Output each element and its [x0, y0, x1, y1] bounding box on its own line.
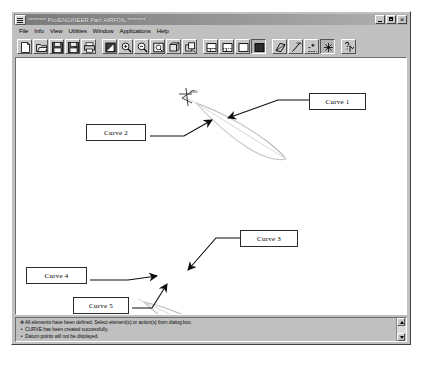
message-bullet-icon: ✥ [18, 319, 25, 326]
message-text: Datum points will not be displayed. [25, 333, 99, 340]
message-bullet-icon: • [18, 326, 25, 333]
message-line: • Datum points will not be displayed. [18, 333, 396, 340]
context-help-icon[interactable] [341, 39, 356, 54]
saved-view-icon[interactable] [182, 39, 197, 54]
upper-airfoil-geometry [184, 97, 286, 160]
toolbar-group-datum [272, 39, 336, 54]
repaint-icon[interactable] [102, 39, 117, 54]
open-folder-icon[interactable] [33, 39, 48, 54]
menu-item-info[interactable]: Info [31, 27, 47, 36]
callout-curve-5[interactable]: Curve 5 [73, 297, 129, 314]
close-button[interactable] [397, 15, 407, 24]
menu-item-view[interactable]: View [47, 27, 66, 36]
datum-point-icon[interactable] [304, 39, 319, 54]
save-as-icon[interactable] [65, 39, 80, 54]
datum-csys-icon[interactable] [320, 39, 335, 54]
message-window: ✥ All elements have been defined. Select… [15, 317, 407, 342]
toolbar [14, 37, 408, 56]
message-text: CURVE has been created successfully. [25, 326, 108, 333]
callout-curve-4[interactable]: Curve 4 [26, 267, 87, 284]
menu-item-file[interactable]: File [16, 27, 31, 36]
window-title: ******** Pro/ENGINEER Part: AIRFOIL ****… [28, 16, 375, 24]
menu-item-utilities[interactable]: Utilities [65, 27, 89, 36]
callout-curve-3[interactable]: Curve 3 [240, 230, 298, 247]
zoom-out-icon[interactable] [134, 39, 149, 54]
message-scrollbar[interactable] [396, 318, 406, 341]
menu-item-applications[interactable]: Applications [117, 27, 154, 36]
menu-item-window[interactable]: Window [90, 27, 117, 36]
message-bullet-icon: • [18, 333, 25, 340]
menu-item-help[interactable]: Help [154, 27, 172, 36]
pro-engineer-window: ******** Pro/ENGINEER Part: AIRFOIL ****… [11, 11, 411, 345]
lower-airfoil-geometry [138, 299, 229, 315]
window-controls [375, 15, 407, 24]
maximize-button[interactable] [386, 15, 396, 24]
toolbar-group-view [102, 39, 198, 54]
refit-icon[interactable] [150, 39, 165, 54]
leader-line-curve-3 [188, 238, 242, 270]
message-text: All elements have been defined. Select e… [25, 319, 192, 326]
callout-curve-2[interactable]: Curve 2 [86, 124, 146, 141]
leader-line-curve-1 [228, 100, 310, 118]
callout-curve-1[interactable]: Curve 1 [309, 93, 366, 110]
toolbar-group-display [203, 39, 267, 54]
scrollbar-track[interactable] [397, 326, 406, 333]
wireframe-icon[interactable] [203, 39, 218, 54]
leader-line-curve-4 [90, 276, 157, 280]
no-hidden-icon[interactable] [235, 39, 250, 54]
scroll-down-icon[interactable] [397, 333, 405, 341]
system-menu-icon[interactable] [15, 15, 26, 25]
csys-label: CS0 [190, 89, 197, 94]
new-file-icon[interactable] [17, 39, 32, 54]
message-line: • CURVE has been created successfully. [18, 326, 396, 333]
print-icon[interactable] [81, 39, 96, 54]
save-icon[interactable] [49, 39, 64, 54]
zoom-in-icon[interactable] [118, 39, 133, 54]
shading-icon[interactable] [251, 39, 266, 54]
reorient-icon[interactable] [166, 39, 181, 54]
scroll-up-icon[interactable] [397, 318, 405, 326]
title-bar[interactable]: ******** Pro/ENGINEER Part: AIRFOIL ****… [14, 14, 408, 25]
minimize-button[interactable] [375, 15, 385, 24]
message-line: ✥ All elements have been defined. Select… [18, 319, 396, 326]
menu-bar: File Info View Utilities Window Applicat… [14, 26, 408, 36]
datum-axis-icon[interactable] [288, 39, 303, 54]
datum-plane-icon[interactable] [272, 39, 287, 54]
leader-line-curve-2 [150, 120, 212, 136]
message-list: ✥ All elements have been defined. Select… [16, 318, 396, 341]
toolbar-group-help [341, 39, 357, 54]
toolbar-group-file [17, 39, 97, 54]
hidden-line-icon[interactable] [219, 39, 234, 54]
